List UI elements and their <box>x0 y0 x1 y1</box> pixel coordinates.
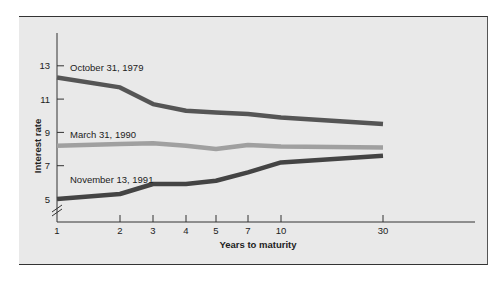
x-tick-label: 4 <box>183 225 188 236</box>
x-tick-label: 7 <box>245 225 250 236</box>
series-label: March 31, 1990 <box>70 129 136 140</box>
x-tick-label: 1 <box>54 225 59 236</box>
y-tick-label: 7 <box>45 160 50 171</box>
series-line <box>57 78 383 125</box>
x-tick-label: 5 <box>213 225 218 236</box>
y-tick-label: 5 <box>45 194 50 205</box>
x-axis-ticks: 1234571030 <box>54 215 388 236</box>
y-axis-ticks: 5791113 <box>39 60 64 204</box>
series-label: November 13, 1991 <box>70 174 153 185</box>
y-tick-label: 9 <box>45 127 50 138</box>
x-tick-label: 30 <box>378 225 389 236</box>
x-axis-title: Years to maturity <box>219 239 297 250</box>
yield-curve-chart: 5791113 1234571030 October 31, 1979March… <box>0 0 504 283</box>
series-label: October 31, 1979 <box>70 62 143 73</box>
y-tick-label: 11 <box>40 94 50 105</box>
y-axis-title: Interest rate <box>32 119 43 173</box>
x-tick-label: 2 <box>117 225 122 236</box>
y-tick-label: 13 <box>39 60 50 71</box>
x-tick-label: 10 <box>276 225 287 236</box>
x-tick-label: 3 <box>150 225 155 236</box>
series-line <box>57 143 383 149</box>
